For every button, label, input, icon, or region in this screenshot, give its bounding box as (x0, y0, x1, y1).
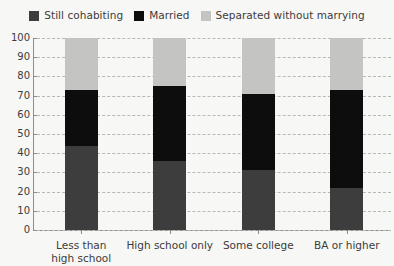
y-axis-tick-mark (33, 134, 37, 135)
bar-group[interactable] (153, 38, 186, 230)
y-axis-tick-label: 0 (0, 225, 30, 235)
x-axis-tick-label: BA or higher (303, 239, 392, 252)
y-axis-tick-label: 50 (0, 129, 30, 139)
bar-group[interactable] (65, 38, 98, 230)
y-axis-tick-label: 90 (0, 52, 30, 62)
y-axis-tick-mark (33, 192, 37, 193)
y-axis-tick-mark (33, 96, 37, 97)
legend-label-separated-without-marrying: Separated without marrying (216, 10, 365, 21)
bar-stack (330, 38, 363, 230)
y-axis: 0102030405060708090100 (0, 38, 30, 230)
bar-segment[interactable] (242, 170, 275, 230)
y-axis-tick-mark (33, 153, 37, 154)
bar-segment[interactable] (330, 90, 363, 188)
bar-stack (242, 38, 275, 230)
y-axis-tick-label: 80 (0, 71, 30, 81)
x-axis-tick-label-line: high school (37, 252, 126, 265)
x-axis-tick-label-line: High school only (126, 239, 215, 252)
bar-segment[interactable] (330, 188, 363, 230)
x-axis-tick-label: Some college (214, 239, 303, 252)
legend-label-still-cohabiting: Still cohabiting (44, 10, 123, 21)
legend-swatch-icon-married (134, 11, 144, 21)
x-axis-tick-label-line: Less than (37, 239, 126, 252)
x-axis-tick-label: High school only (126, 239, 215, 252)
bar-segment[interactable] (242, 38, 275, 94)
x-axis-tick-label-line: Some college (214, 239, 303, 252)
y-axis-tick-label: 60 (0, 110, 30, 120)
y-axis-tick-label: 10 (0, 206, 30, 216)
y-axis-tick-label: 100 (0, 33, 30, 43)
legend-label-married: Married (149, 10, 189, 21)
x-axis-tick-mark (81, 230, 82, 234)
x-axis: Less thanhigh schoolHigh school onlySome… (37, 234, 391, 266)
bar-stack (65, 38, 98, 230)
y-axis-tick-label: 30 (0, 167, 30, 177)
plot-area: 0102030405060708090100 Less thanhigh sch… (0, 38, 394, 266)
bar-group[interactable] (330, 38, 363, 230)
bar-segment[interactable] (330, 38, 363, 90)
y-axis-tick-mark (33, 230, 37, 231)
y-axis-tick-mark (33, 76, 37, 77)
legend-item-still-cohabiting[interactable]: Still cohabiting (29, 10, 123, 21)
bar-segment[interactable] (153, 38, 186, 86)
bar-segment[interactable] (153, 161, 186, 230)
stacked-bar-chart: Still cohabiting Married Separated witho… (0, 0, 394, 266)
x-axis-line (33, 230, 391, 231)
bar-stack (153, 38, 186, 230)
bar-segment[interactable] (153, 86, 186, 161)
chart-legend: Still cohabiting Married Separated witho… (0, 10, 394, 21)
y-axis-tick-mark (33, 172, 37, 173)
bars-layer (37, 38, 391, 230)
y-axis-tick-mark (33, 211, 37, 212)
y-axis-tick-label: 70 (0, 91, 30, 101)
y-axis-tick-label: 40 (0, 148, 30, 158)
legend-item-married[interactable]: Married (134, 10, 189, 21)
bar-segment[interactable] (65, 38, 98, 90)
legend-swatch-icon-still-cohabiting (29, 11, 39, 21)
x-axis-tick-mark (258, 230, 259, 234)
x-axis-tick-label-line: BA or higher (303, 239, 392, 252)
x-axis-tick-mark (170, 230, 171, 234)
x-axis-tick-mark (347, 230, 348, 234)
bar-segment[interactable] (242, 94, 275, 171)
bar-group[interactable] (242, 38, 275, 230)
y-axis-tick-mark (33, 115, 37, 116)
bar-segment[interactable] (65, 146, 98, 230)
y-axis-tick-label: 20 (0, 187, 30, 197)
y-axis-tick-mark (33, 57, 37, 58)
y-axis-tick-mark (33, 38, 37, 39)
legend-item-separated-without-marrying[interactable]: Separated without marrying (201, 10, 365, 21)
legend-swatch-icon-separated-without-marrying (201, 11, 211, 21)
bar-segment[interactable] (65, 90, 98, 146)
x-axis-tick-label: Less thanhigh school (37, 239, 126, 264)
